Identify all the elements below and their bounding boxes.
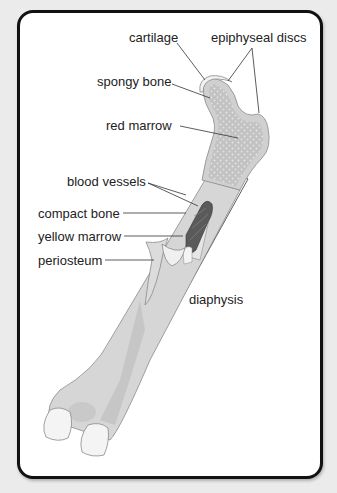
label-red-marrow: red marrow — [106, 118, 172, 133]
bone-diagram: cartilage epiphyseal discs spongy bone r… — [0, 0, 337, 493]
label-blood-vessels: blood vessels — [67, 174, 146, 189]
label-compact-bone: compact bone — [38, 206, 120, 221]
label-yellow-marrow: yellow marrow — [38, 229, 122, 244]
label-spongy-bone: spongy bone — [97, 74, 171, 89]
label-cartilage: cartilage — [129, 30, 178, 45]
upper-epiphysis — [202, 78, 269, 190]
label-diaphysis: diaphysis — [189, 292, 244, 307]
label-periosteum: periosteum — [38, 253, 102, 268]
label-epiphyseal-discs: epiphyseal discs — [211, 30, 307, 45]
